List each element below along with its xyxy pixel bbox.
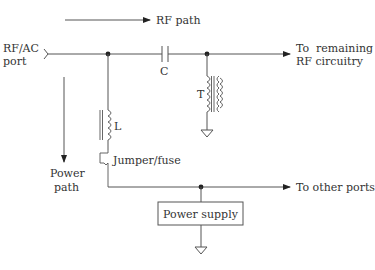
ground-icon-transformer [201, 130, 213, 137]
jumper-fuse-icon [100, 150, 108, 187]
power-path-label: Power [50, 167, 86, 180]
ground-icon-supply [195, 247, 207, 254]
rf-path-label: RF path [156, 14, 201, 27]
remaining-rf-label: To remaining [296, 42, 373, 55]
port-label-2: port [3, 55, 27, 68]
inductor-icon [100, 110, 111, 150]
power-supply-label: Power supply [163, 208, 239, 221]
inductor-label: L [114, 120, 122, 133]
transformer-label: T [197, 88, 205, 101]
other-ports-label: To other ports [296, 181, 375, 194]
jumper-fuse-label: Jumper/fuse [112, 154, 181, 167]
power-path-label-2: path [54, 181, 79, 194]
transformer-icon [207, 54, 223, 130]
circuit-diagram: RF path RF/AC port C To remaining RF cir… [0, 0, 375, 270]
capacitor-icon [162, 46, 168, 62]
remaining-rf-label-2: RF circuitry [296, 55, 364, 68]
capacitor-label: C [160, 65, 168, 78]
port-connector-icon [44, 49, 48, 59]
port-label: RF/AC [3, 42, 39, 55]
